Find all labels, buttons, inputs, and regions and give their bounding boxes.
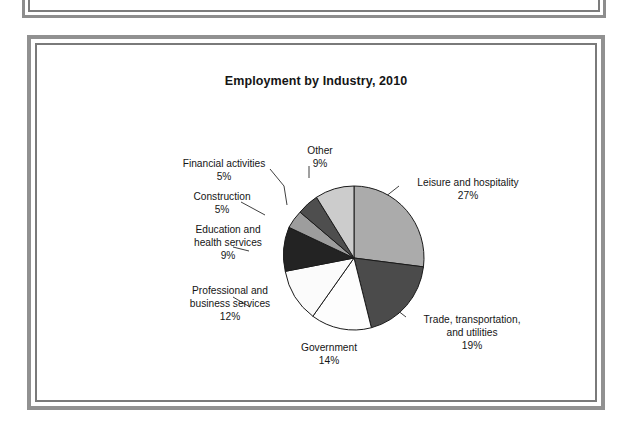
- pie-label-education-health-services-value: 9%: [163, 249, 293, 262]
- pie-label-construction-value: 5%: [157, 203, 287, 216]
- pie-label-government: Government 14%: [264, 341, 394, 367]
- pie-label-education-health-services-name-line2: health services: [163, 236, 293, 249]
- chart-title: Employment by Industry, 2010: [37, 74, 595, 88]
- pie-label-professional-business-services-name-line1: Professional and: [165, 284, 295, 297]
- page-frame-fragment: [22, 0, 606, 18]
- pie-label-leisure-hospitality: Leisure and hospitality 27%: [403, 176, 533, 202]
- pie-label-professional-business-services-value: 12%: [165, 310, 295, 323]
- pie-label-construction-name: Construction: [157, 190, 287, 203]
- pie-label-financial-activities-name: Financial activities: [155, 157, 293, 170]
- pie-label-leisure-hospitality-value: 27%: [403, 189, 533, 202]
- pie-label-leisure-hospitality-name: Leisure and hospitality: [403, 176, 533, 189]
- pie-label-professional-business-services: Professional and business services 12%: [165, 284, 295, 324]
- page-frame-fragment-inner: [28, 0, 600, 12]
- pie-label-financial-activities-value: 5%: [155, 170, 293, 183]
- chart-frame: Employment by Industry, 2010: [27, 35, 605, 410]
- pie-label-trade-transportation-utilities-name-line1: Trade, transportation,: [407, 313, 537, 326]
- pie-label-financial-activities: Financial activities 5%: [155, 157, 293, 183]
- pie-label-trade-transportation-utilities-value: 19%: [407, 339, 537, 352]
- pie-label-education-health-services-name-line1: Education and: [163, 223, 293, 236]
- pie-label-government-name: Government: [264, 341, 394, 354]
- pie-label-education-health-services: Education and health services 9%: [163, 223, 293, 263]
- chart-plot-surface: Employment by Industry, 2010: [37, 45, 595, 400]
- pie-label-government-value: 14%: [264, 354, 394, 367]
- pie-label-trade-transportation-utilities-name-line2: and utilities: [407, 326, 537, 339]
- pie-label-professional-business-services-name-line2: business services: [165, 297, 295, 310]
- chart-frame-inner: Employment by Industry, 2010: [35, 43, 597, 402]
- pie-label-construction: Construction 5%: [157, 190, 287, 216]
- pie-label-other-name: Other: [280, 144, 360, 157]
- pie-label-trade-transportation-utilities: Trade, transportation, and utilities 19%: [407, 313, 537, 353]
